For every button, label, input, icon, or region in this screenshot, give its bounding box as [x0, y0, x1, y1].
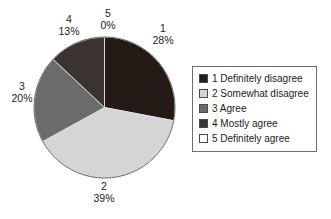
slice-label-4: 4 13% [49, 13, 89, 37]
legend-label-5: 5 Definitely agree [212, 133, 290, 144]
legend-item-5[interactable]: 5 Definitely agree [199, 131, 311, 146]
legend-item-4[interactable]: 4 Mostly agree [199, 116, 311, 131]
legend-label-1: 1 Definitely disagree [212, 73, 303, 84]
legend-swatch-5 [199, 134, 208, 143]
slice-label-3: 3 20% [2, 80, 42, 104]
slice-label-5-name: 5 [88, 7, 128, 19]
chart-legend: 1 Definitely disagree2 Somewhat disagree… [192, 66, 317, 152]
legend-swatch-1 [199, 74, 208, 83]
slice-label-3-name: 3 [2, 80, 42, 92]
slice-label-2-name: 2 [84, 180, 124, 192]
slice-label-5-value: 0% [88, 19, 128, 31]
legend-item-3[interactable]: 3 Agree [199, 101, 311, 116]
pie-slice-1[interactable] [105, 37, 176, 121]
slice-label-2-value: 39% [84, 192, 124, 204]
slice-label-4-value: 13% [49, 25, 89, 37]
legend-label-3: 3 Agree [212, 103, 246, 114]
slice-label-1-value: 28% [143, 34, 183, 46]
pie-slices-svg [33, 36, 176, 179]
legend-swatch-4 [199, 119, 208, 128]
pie-chart-figure: 1 28% 2 39% 3 20% 4 13% 5 0% 1 Definitel… [0, 0, 331, 219]
legend-label-2: 2 Somewhat disagree [212, 88, 309, 99]
legend-item-2[interactable]: 2 Somewhat disagree [199, 86, 311, 101]
legend-label-4: 4 Mostly agree [212, 118, 278, 129]
legend-item-1[interactable]: 1 Definitely disagree [199, 71, 311, 86]
pie-chart-plot [33, 36, 176, 179]
slice-label-1-name: 1 [143, 22, 183, 34]
slice-label-3-value: 20% [2, 92, 42, 104]
slice-label-2: 2 39% [84, 180, 124, 204]
legend-swatch-3 [199, 104, 208, 113]
slice-label-4-name: 4 [49, 13, 89, 25]
slice-label-1: 1 28% [143, 22, 183, 46]
legend-swatch-2 [199, 89, 208, 98]
slice-label-5: 5 0% [88, 7, 128, 31]
